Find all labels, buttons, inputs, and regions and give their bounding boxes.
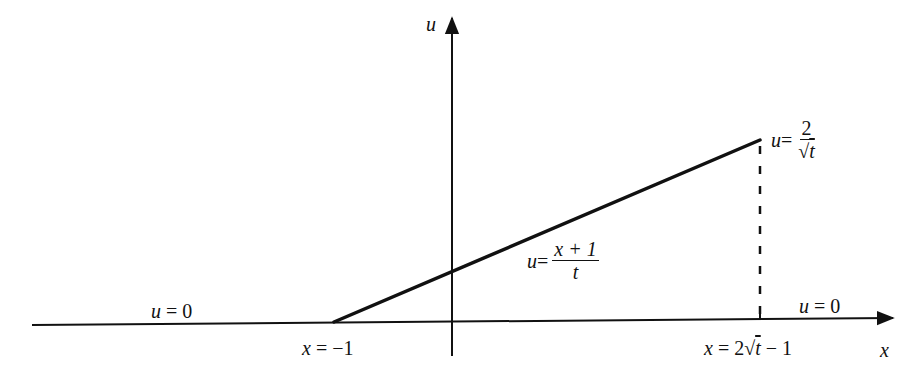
right-endpoint-lhs: x — [704, 337, 713, 359]
right-zero-label: u = 0 — [799, 296, 840, 316]
peak-formula-den-var: t — [809, 140, 815, 162]
x-axis-label: x — [880, 340, 889, 360]
peak-formula-label: u = 2 √t — [771, 117, 817, 163]
ramp-formula-lhs: u — [527, 251, 537, 271]
ramp-formula-eq: = — [537, 251, 548, 271]
left-endpoint-rhs: −1 — [332, 337, 353, 359]
sqrt-symbol: √ — [798, 140, 809, 162]
peak-formula-fraction: 2 √t — [796, 117, 817, 163]
left-endpoint-eq: = — [311, 337, 332, 359]
left-zero-lhs: u — [151, 300, 161, 322]
right-zero-rhs: 0 — [830, 295, 840, 317]
left-endpoint-lhs: x — [302, 337, 311, 359]
u-axis-label: u — [426, 14, 436, 34]
right-endpoint-label: x = 2√t − 1 — [704, 338, 792, 358]
peak-formula-numerator: 2 — [800, 117, 814, 140]
peak-formula-denominator: √t — [796, 140, 817, 163]
ramp-formula-fraction: x + 1 t — [552, 238, 598, 284]
ramp-line — [334, 140, 760, 322]
diagram-canvas — [0, 0, 923, 373]
ramp-formula-denominator: t — [571, 261, 581, 284]
left-zero-eq: = — [161, 300, 182, 322]
right-zero-lhs: u — [799, 295, 809, 317]
right-endpoint-eq: = 2√ — [713, 337, 755, 359]
left-zero-label: u = 0 — [151, 301, 192, 321]
left-endpoint-label: x = −1 — [302, 338, 353, 358]
peak-formula-lhs: u — [771, 130, 781, 150]
right-zero-eq: = — [809, 295, 830, 317]
ramp-formula-numerator: x + 1 — [552, 238, 598, 261]
left-zero-rhs: 0 — [182, 300, 192, 322]
ramp-formula-label: u = x + 1 t — [527, 238, 599, 284]
right-endpoint-rest: − 1 — [761, 337, 792, 359]
peak-formula-eq: = — [781, 130, 792, 150]
